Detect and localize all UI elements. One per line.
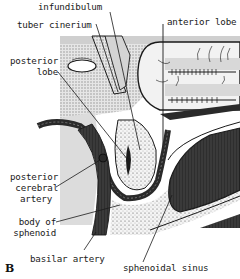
label-sphenoidal-sinus: sphenoidal sinus — [123, 263, 208, 273]
label-posterior-lobe-line2: lobe — [8, 67, 58, 77]
label-infundibulum: infundibulum — [38, 2, 102, 12]
panel-letter: B — [5, 262, 14, 275]
label-tuber-cinerium: tuber cinerium — [17, 20, 92, 30]
label-posterior-cerebral-artery-line3: artery — [6, 194, 52, 204]
label-basilar-artery: basilar artery — [30, 254, 105, 264]
label-posterior-cerebral-artery-line1: posterior — [6, 172, 58, 182]
label-posterior-lobe-line1: posterior — [8, 56, 58, 66]
label-body-of-sphenoid-line1: body of — [6, 217, 56, 227]
pituitary-sagittal-diagram: infundibulum tuber cinerium anterior lob… — [0, 0, 240, 279]
label-body-of-sphenoid-line2: sphenoid — [6, 228, 56, 238]
label-anterior-lobe: anterior lobe — [167, 17, 236, 27]
label-posterior-cerebral-artery-line2: cerebral — [6, 183, 58, 193]
